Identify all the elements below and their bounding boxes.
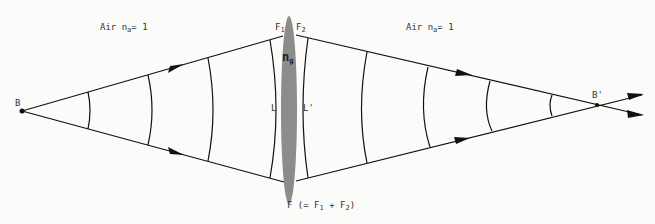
point-b-prime-icon: [595, 103, 599, 107]
label-b: B: [15, 98, 20, 108]
lens-shape: [281, 16, 297, 204]
label-l-prime: L': [303, 103, 314, 113]
wavefront-right-2: [362, 52, 368, 163]
label-f2: F2: [296, 22, 306, 34]
diagram-canvas: [0, 0, 655, 224]
arrow-lower-right-icon: [454, 137, 470, 144]
wavefront-left-3: [208, 58, 213, 161]
air-label-right: Air na= 1: [406, 22, 454, 34]
label-lens-index: ng: [282, 50, 293, 65]
point-b-icon: [20, 109, 25, 114]
arrow-lower-left-icon: [168, 147, 184, 155]
air-label-left: Air na= 1: [100, 22, 148, 34]
label-l: L: [271, 103, 276, 113]
arrow-exit-upper-icon: [627, 93, 644, 100]
ray-upper-incident: [22, 36, 283, 111]
label-f1: F1: [275, 22, 285, 34]
wavefront-left-2: [148, 75, 152, 145]
wavefront-right-5: [550, 95, 552, 116]
wavefront-left-1: [88, 92, 90, 129]
wavefront-right-3: [423, 67, 430, 147]
wavefront-right-4: [486, 81, 492, 131]
label-total-focal: F (= F1 + F2): [287, 200, 355, 212]
lens-refraction-diagram: Air na= 1 Air na= 1 B B' F1 F2 ng L L' F…: [0, 0, 655, 224]
arrow-upper-right-icon: [455, 69, 472, 76]
arrow-exit-lower-icon: [627, 110, 644, 118]
ray-lower-incident: [22, 111, 284, 182]
label-b-prime: B': [592, 90, 603, 100]
